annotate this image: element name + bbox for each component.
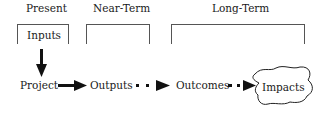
outputs-to-outcomes-arrow <box>136 80 170 91</box>
inputs-to-project-arrow <box>36 49 47 77</box>
project-to-outputs-arrow <box>58 80 87 91</box>
impacts-cloud-shape <box>253 67 312 105</box>
outcomes-to-impacts-arrow <box>228 80 256 91</box>
diagram-graphics <box>0 0 326 118</box>
